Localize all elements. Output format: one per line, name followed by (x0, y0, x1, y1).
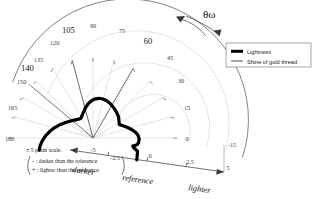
angular-label-neg15: -15 (228, 141, 236, 148)
angular-label-140: 140 (21, 63, 34, 73)
radial-label-neg2p5: -2.5 (110, 154, 120, 161)
polar-chart-svg: 180 165 150 140 135 120 105 90 75 60 45 … (0, 0, 313, 199)
angular-label-180: 180 (5, 135, 14, 142)
polar-chart-figure: 180 165 150 140 135 120 105 90 75 60 45 … (0, 0, 313, 199)
angular-label-90: 90 (90, 22, 96, 29)
theta-omega-label: θω (203, 8, 216, 20)
legend-label-shine: Shine of gold thread (247, 59, 297, 65)
angular-label-135: 135 (34, 56, 43, 63)
angular-label-0: 0 (185, 135, 188, 142)
series-shine-of-gold-thread (31, 60, 133, 138)
axis-word-reference: reference (122, 173, 154, 186)
angular-label-150: 150 (17, 78, 26, 85)
legend-label-lightness: Lightness (247, 49, 271, 55)
angular-label-75: 75 (119, 27, 125, 34)
radial-label-5: 5 (226, 164, 229, 171)
polar-grid-spokes (13, 58, 174, 138)
radial-label-neg5: -5 (90, 146, 95, 153)
angular-label-45: 45 (167, 54, 173, 61)
note-scale: ± 5 point scale. (26, 147, 62, 153)
legend-marker-lightness (231, 50, 243, 53)
note-plus: + : lighter than the reference (32, 167, 99, 173)
angular-label-60: 60 (144, 36, 153, 46)
note-paren-open-icon (28, 156, 30, 175)
radial-tick-labels: -5 -2.5 0 2.5 5 (90, 146, 229, 171)
angular-label-105: 105 (62, 25, 75, 35)
axis-word-lighter: lighter (188, 183, 212, 195)
legend: Lightness Shine of gold thread (226, 43, 311, 67)
radial-label-2p5: 2.5 (186, 158, 194, 165)
angular-label-165: 165 (8, 104, 17, 111)
shine-ray-105 (72, 60, 93, 138)
note-minus: - : darker than the reference (32, 158, 98, 164)
angular-label-15: 15 (184, 104, 190, 111)
radial-label-0: 0 (148, 152, 151, 159)
angular-label-30: 30 (178, 77, 184, 84)
angular-label-120: 120 (50, 39, 59, 46)
